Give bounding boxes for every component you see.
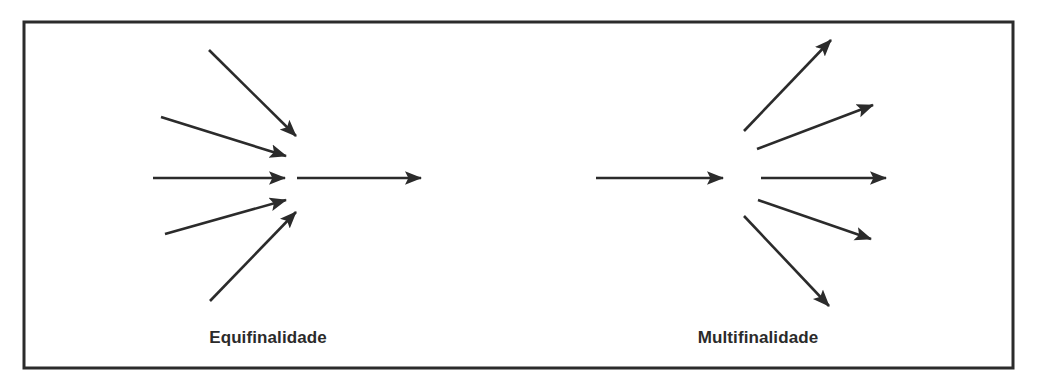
equifinalidade-caption: Equifinalidade [209, 328, 327, 348]
multifinalidade-arrow-group [596, 40, 886, 306]
multifinalidade-outgoing-arrow-1 [744, 40, 831, 131]
multifinalidade-outgoing-arrow-4 [758, 200, 871, 239]
multifinalidade-caption: Multifinalidade [698, 328, 819, 348]
equifinalidade-incoming-arrow-4 [165, 200, 286, 234]
equifinalidade-arrow-group [153, 50, 421, 301]
equifinalidade-incoming-arrow-2 [161, 117, 286, 156]
multifinalidade-outgoing-arrow-5 [744, 216, 829, 306]
equifinalidade-incoming-arrow-1 [209, 50, 296, 136]
equifinalidade-incoming-arrow-5 [210, 212, 296, 301]
multifinalidade-outgoing-arrow-2 [757, 105, 873, 149]
figure-root: Equifinalidade Multifinalidade [0, 0, 1040, 391]
figure-border [24, 22, 1013, 368]
diagram-canvas [0, 0, 1040, 391]
